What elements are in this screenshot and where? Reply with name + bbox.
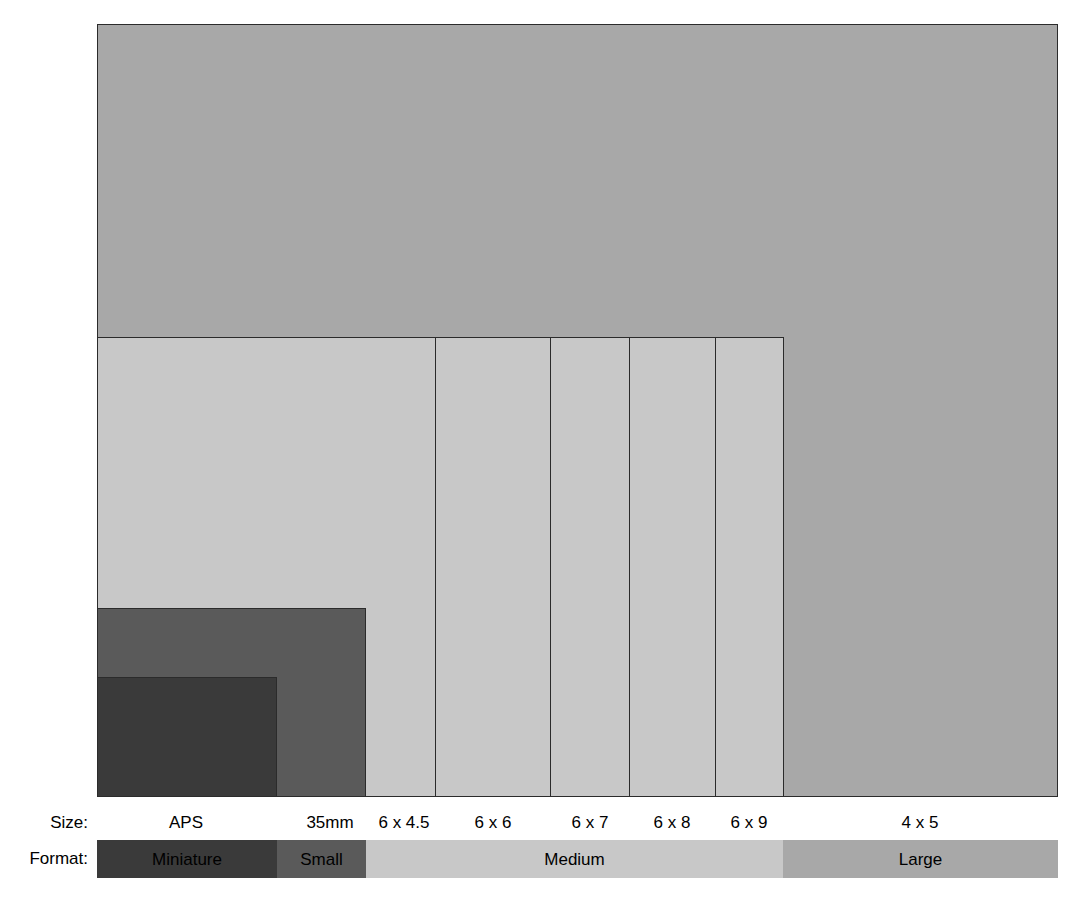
format-row-label: Format:: [0, 850, 88, 867]
frame-rect-aps[interactable]: [97, 677, 277, 797]
format-band-segment-medium[interactable]: Medium: [366, 840, 783, 878]
format-band-segment-small[interactable]: Small: [277, 840, 366, 878]
size-row-label: Size:: [0, 814, 88, 831]
format-band-label: Small: [300, 851, 343, 868]
size-tick-small-35mm: 35mm: [270, 814, 390, 831]
format-band-segment-miniature[interactable]: Miniature: [97, 840, 277, 878]
format-band-label: Medium: [544, 851, 604, 868]
format-band-segment-large[interactable]: Large: [783, 840, 1058, 878]
size-tick-large-4x5: 4 x 5: [860, 814, 980, 831]
size-tick-miniature-aps: APS: [126, 814, 246, 831]
format-band-label: Miniature: [152, 851, 222, 868]
format-band-label: Large: [899, 851, 942, 868]
diagram-canvas: Size: 4 x 56 x 96 x 86 x 76 x 66 x 4.535…: [0, 0, 1079, 902]
